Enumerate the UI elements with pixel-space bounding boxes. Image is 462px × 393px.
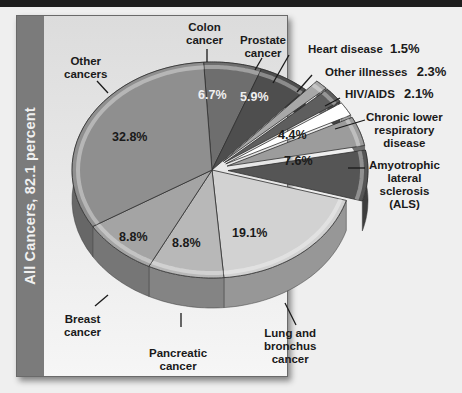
label-value: 2.1% — [404, 86, 434, 101]
label-breast: Breast cancer — [64, 313, 101, 339]
label-line: Colon — [186, 21, 223, 34]
label-prostate: Prostate cancer — [240, 34, 286, 60]
label-lung: Lung and bronchus cancer — [264, 327, 316, 366]
label-value: 1.5% — [390, 41, 420, 56]
label-line: disease — [366, 137, 443, 150]
label-als: Amyotrophic lateral sclerosis (ALS) — [369, 159, 440, 211]
label-line: cancer — [64, 326, 101, 339]
label-line: cancers — [64, 68, 107, 81]
label-other-illnesses: Other illnesses 2.3% — [325, 65, 446, 79]
label-other-cancers: Other cancers — [64, 55, 107, 81]
label-pancreatic: Pancreatic cancer — [149, 347, 207, 373]
label-line: (ALS) — [369, 198, 440, 211]
value-prostate: 5.9% — [240, 90, 269, 104]
label-line: Lung and — [264, 327, 316, 340]
label-line: Amyotrophic — [369, 159, 440, 172]
label-heart-disease: Heart disease 1.5% — [308, 42, 420, 56]
label-colon: Colon cancer — [186, 21, 223, 47]
label-line: sclerosis — [369, 185, 440, 198]
label-line: Breast — [64, 313, 101, 326]
value-als: 7.6% — [284, 154, 313, 168]
label-clrd: Chronic lower respiratory disease — [366, 111, 443, 150]
label-line: Prostate — [240, 34, 286, 47]
label-line: cancer — [186, 34, 223, 47]
value-other-cancers: 32.8% — [112, 130, 147, 144]
label-line: cancer — [149, 360, 207, 373]
label-line: respiratory — [366, 124, 443, 137]
label-value: 2.3% — [417, 64, 447, 79]
label-line: bronchus — [264, 340, 316, 353]
label-text: HIV/AIDS — [345, 88, 395, 100]
label-line: cancer — [240, 47, 286, 60]
value-pancreatic: 8.8% — [172, 236, 201, 250]
value-clrd: 4.4% — [278, 128, 307, 142]
value-breast: 8.8% — [119, 230, 148, 244]
label-line: lateral — [369, 172, 440, 185]
value-colon: 6.7% — [198, 88, 227, 102]
label-line: cancer — [264, 353, 316, 366]
label-line: Pancreatic — [149, 347, 207, 360]
label-hiv-aids: HIV/AIDS 2.1% — [345, 87, 434, 101]
label-line: Chronic lower — [366, 111, 443, 124]
label-line: Other — [64, 55, 107, 68]
value-lung: 19.1% — [232, 226, 267, 240]
label-text: Heart disease — [308, 43, 383, 55]
label-text: Other illnesses — [325, 66, 407, 78]
